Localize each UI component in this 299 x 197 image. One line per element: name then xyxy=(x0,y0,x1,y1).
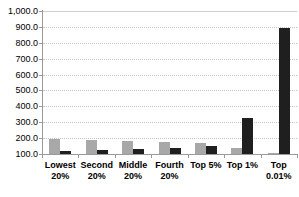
x-axis-category-label-line: 20% xyxy=(149,171,189,182)
x-axis-tick xyxy=(188,154,189,158)
y-axis-label: 300.0 xyxy=(0,117,38,127)
y-axis-label: 600.0 xyxy=(0,70,38,80)
y-axis-label: 1,000.0 xyxy=(0,6,38,16)
x-axis-line xyxy=(42,154,297,155)
x-axis-category-label-line: Top xyxy=(259,160,299,171)
gridline xyxy=(43,27,297,28)
gray-series-bar xyxy=(159,142,170,154)
x-axis-tick xyxy=(78,154,79,158)
gray-series-bar xyxy=(122,141,133,155)
y-axis-label: 400.0 xyxy=(0,101,38,111)
x-axis-category-label: Top 1% xyxy=(222,160,262,171)
gridline xyxy=(43,90,297,91)
x-axis-category-label-line: 20% xyxy=(40,171,80,182)
x-axis-category-label: Middle20% xyxy=(113,160,153,182)
black-series-bar xyxy=(170,148,181,154)
x-axis-category-label: Second20% xyxy=(76,160,116,182)
x-axis-category-label-line: Second xyxy=(76,160,116,171)
gray-series-bar xyxy=(49,139,60,154)
gray-series-bar xyxy=(231,148,242,154)
y-axis-label: 100.0 xyxy=(0,149,38,159)
gray-series-bar xyxy=(86,140,97,154)
y-axis-line xyxy=(42,10,43,155)
gridline xyxy=(43,75,297,76)
x-axis-tick xyxy=(115,154,116,158)
gridline xyxy=(43,59,297,60)
black-series-bar xyxy=(206,146,217,154)
gray-series-bar xyxy=(195,143,206,154)
x-axis-category-label-line: 20% xyxy=(76,171,116,182)
y-axis-label: 800.0 xyxy=(0,38,38,48)
gridline xyxy=(43,106,297,107)
y-axis-label: 500.0 xyxy=(0,85,38,95)
black-series-bar xyxy=(97,150,108,154)
x-axis-tick xyxy=(261,154,262,158)
x-axis-tick xyxy=(224,154,225,158)
x-axis-tick xyxy=(42,154,43,158)
black-series-bar xyxy=(242,118,253,154)
x-axis-category-label-line: Top 1% xyxy=(222,160,262,171)
gray-series-bar xyxy=(268,153,279,154)
gridline xyxy=(43,122,297,123)
black-series-bar xyxy=(279,28,290,154)
x-axis-category-label: Top0.01% xyxy=(259,160,299,182)
x-axis-category-label-line: Middle xyxy=(113,160,153,171)
black-series-bar xyxy=(133,149,144,154)
x-axis-category-label: Top 5% xyxy=(186,160,226,171)
x-axis-category-label-line: Top 5% xyxy=(186,160,226,171)
x-axis-category-label-line: Fourth xyxy=(149,160,189,171)
x-axis-category-label-line: 20% xyxy=(113,171,153,182)
y-axis-label: 900.0 xyxy=(0,22,38,32)
x-axis-category-label-line: Lowest xyxy=(40,160,80,171)
gridline xyxy=(43,11,297,12)
y-axis-label: 200.0 xyxy=(0,133,38,143)
x-axis-tick xyxy=(297,154,298,158)
gridline xyxy=(43,43,297,44)
bar-chart: 1,000.0900.0800.0700.0600.0500.0400.0300… xyxy=(0,0,299,197)
x-axis-category-label: Lowest20% xyxy=(40,160,80,182)
x-axis-tick xyxy=(151,154,152,158)
x-axis-category-label-line: 0.01% xyxy=(259,171,299,182)
y-axis-label: 700.0 xyxy=(0,54,38,64)
black-series-bar xyxy=(60,151,71,154)
x-axis-category-label: Fourth20% xyxy=(149,160,189,182)
gridline xyxy=(43,138,297,139)
